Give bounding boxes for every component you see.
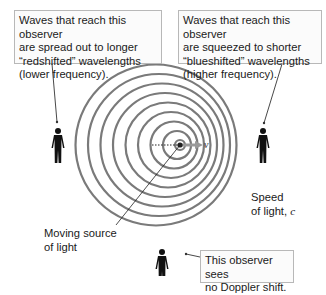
label-text: of light, xyxy=(251,205,290,217)
callout-line: Waves that reach this observer xyxy=(183,14,317,41)
observer-right-icon xyxy=(257,128,270,163)
moving-source-label: Moving source of light xyxy=(44,227,117,254)
speed-of-light-label: Speed of light, c xyxy=(251,191,295,218)
no-shift-callout: This observer sees no Doppler shift. xyxy=(200,250,294,283)
label-line: of light xyxy=(44,241,117,255)
callout-line: Waves that reach this observer xyxy=(19,14,157,41)
callout-line: “blueshifted” wavelengths xyxy=(183,55,317,69)
callout-line: no Doppler shift. xyxy=(205,281,289,295)
callout-line: “redshifted” wavelengths xyxy=(19,55,157,69)
velocity-symbol: v xyxy=(204,139,209,150)
no-shift-pointer xyxy=(186,254,200,257)
callout-line: This observer sees xyxy=(205,254,289,281)
source-leader-line xyxy=(116,145,180,225)
observer-left-icon xyxy=(52,128,65,163)
callout-line: are spread out to longer xyxy=(19,41,157,55)
callout-line: are squeezed to shorter xyxy=(183,41,317,55)
observer-bottom-icon xyxy=(156,249,169,276)
blueshift-callout: Waves that reach this observer are squee… xyxy=(178,10,322,64)
label-line: Moving source xyxy=(44,227,117,241)
label-line: of light, c xyxy=(251,205,295,219)
label-line: Speed xyxy=(251,191,295,205)
redshift-callout: Waves that reach this observer are sprea… xyxy=(14,10,162,64)
callout-line: (lower frequency). xyxy=(19,68,157,82)
speed-symbol: c xyxy=(290,205,295,217)
callout-line: (higher frequency). xyxy=(183,68,317,82)
